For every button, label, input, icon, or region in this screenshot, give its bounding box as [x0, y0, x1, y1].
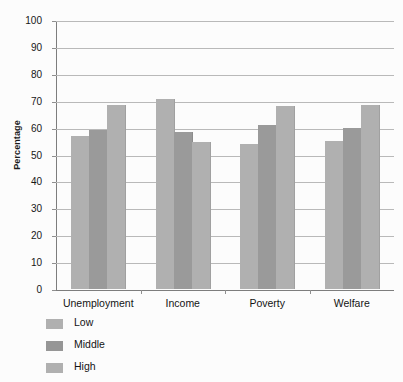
bar-group — [71, 20, 125, 289]
bar-group — [156, 20, 210, 289]
y-axis-tick-mark — [52, 48, 56, 49]
legend-item-label: Middle — [74, 338, 105, 350]
y-axis-tick-label: 70 — [2, 97, 42, 107]
bar — [192, 142, 211, 289]
y-axis-tick-mark — [52, 290, 56, 291]
y-axis-tick-label: 20 — [2, 231, 42, 241]
y-axis-tick-label: 80 — [2, 70, 42, 80]
y-axis-tick-mark — [52, 182, 56, 183]
bar — [174, 132, 193, 289]
bar — [276, 106, 295, 289]
y-axis-tick-mark — [52, 129, 56, 130]
y-axis-tick-label: 90 — [2, 43, 42, 53]
y-axis-tick-label: 10 — [2, 258, 42, 268]
bar — [89, 130, 108, 289]
y-axis-tick-mark — [52, 75, 56, 76]
bar — [361, 105, 380, 289]
y-axis-tick-label: 100 — [2, 16, 42, 26]
y-axis-tick-mark — [52, 102, 56, 103]
y-axis-tick-mark — [52, 263, 56, 264]
legend-item-label: Low — [74, 316, 93, 328]
y-axis-tick-mark — [52, 236, 56, 237]
x-axis-tick-mark — [225, 290, 226, 294]
legend-swatch-icon — [46, 319, 63, 329]
legend-swatch-icon — [46, 363, 63, 373]
bar-group — [325, 20, 379, 289]
y-axis-tick-label: 50 — [2, 151, 42, 161]
legend-item-label: High — [74, 360, 96, 372]
y-axis-tick-label: 60 — [2, 124, 42, 134]
bar — [71, 136, 90, 289]
y-axis-tick-label: 40 — [2, 177, 42, 187]
plot-area: 1009080706050403020100 UnemploymentIncom… — [56, 21, 394, 290]
legend-swatch-icon — [46, 341, 63, 351]
y-axis-tick-mark — [52, 156, 56, 157]
y-axis-tick-mark — [52, 21, 56, 22]
bar-group — [240, 20, 294, 289]
bar — [240, 144, 259, 289]
bar-chart: Percentage 1009080706050403020100 Unempl… — [0, 0, 403, 382]
y-axis-tick-label: 30 — [2, 204, 42, 214]
x-axis-tick-mark — [310, 290, 311, 294]
bar — [107, 105, 126, 289]
bar — [258, 125, 277, 289]
bar — [325, 141, 344, 289]
y-axis-tick-mark — [52, 209, 56, 210]
x-axis-tick-mark — [141, 290, 142, 294]
bar — [343, 128, 362, 289]
bar — [156, 99, 175, 289]
x-axis-category-label: Welfare — [292, 297, 403, 309]
y-axis-tick-label: 0 — [2, 285, 42, 295]
